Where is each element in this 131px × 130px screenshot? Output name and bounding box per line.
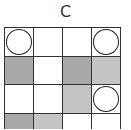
grid-cell: [63, 28, 92, 57]
circle-icon: [93, 29, 119, 55]
grid-cell: [34, 85, 63, 114]
grid-cell: [92, 85, 121, 114]
circle-icon: [93, 86, 119, 112]
grid-cell: [5, 114, 34, 130]
grid-cell: [92, 28, 121, 57]
panel-label: C: [0, 3, 131, 21]
grid-cell: [92, 57, 121, 86]
grid-cell: [63, 57, 92, 86]
grid-cell: [92, 114, 121, 130]
puzzle-grid: [4, 27, 121, 129]
grid-cell: [63, 114, 92, 130]
circle-icon: [6, 29, 32, 55]
grid-cell: [5, 57, 34, 86]
grid-cell: [63, 85, 92, 114]
grid-cell: [5, 28, 34, 57]
grid-cell: [34, 28, 63, 57]
grid-cell: [34, 114, 63, 130]
grid-cell: [34, 57, 63, 86]
grid-cell: [5, 85, 34, 114]
